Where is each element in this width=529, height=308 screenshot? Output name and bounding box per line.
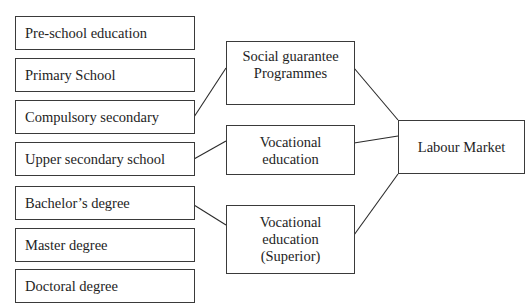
connector-bachelor-to-superior [194, 205, 226, 225]
node-social-guarantee-programmes: Social guarantee Programmes [226, 41, 355, 105]
node-label: Master degree [25, 237, 108, 254]
node-label: Bachelor’s degree [25, 195, 130, 212]
node-label-line: education [262, 151, 318, 168]
node-upper-secondary-school: Upper secondary school [15, 142, 195, 176]
connector-vocational-to-labour [354, 136, 398, 143]
node-vocational-education: Vocational education [226, 125, 355, 175]
node-compulsory-secondary: Compulsory secondary [15, 100, 195, 134]
node-label-line: Programmes [254, 65, 327, 82]
node-label: Primary School [25, 67, 116, 84]
node-label-line: education [262, 231, 318, 248]
node-label: Labour Market [418, 139, 505, 156]
node-bachelors-degree: Bachelor’s degree [15, 186, 195, 220]
node-label-line: Vocational [260, 214, 322, 231]
node-primary-school: Primary School [15, 58, 195, 92]
connector-social-to-labour [354, 68, 398, 120]
connector-superior-to-labour [354, 174, 398, 235]
node-label: Doctoral degree [25, 278, 118, 295]
connector-compulsory-to-social [194, 68, 226, 117]
node-vocational-education-superior: Vocational education (Superior) [226, 205, 355, 274]
node-label-line: Vocational [260, 134, 322, 151]
node-doctoral-degree: Doctoral degree [15, 269, 195, 303]
node-label: Compulsory secondary [25, 109, 159, 126]
connector-upper-to-vocational [194, 141, 226, 159]
node-label-line: (Superior) [261, 248, 321, 265]
node-pre-school-education: Pre-school education [15, 16, 195, 50]
node-label: Upper secondary school [25, 151, 165, 168]
node-labour-market: Labour Market [398, 120, 525, 174]
node-label: Pre-school education [25, 25, 147, 42]
node-master-degree: Master degree [15, 228, 195, 262]
node-label-line: Social guarantee [242, 48, 338, 65]
